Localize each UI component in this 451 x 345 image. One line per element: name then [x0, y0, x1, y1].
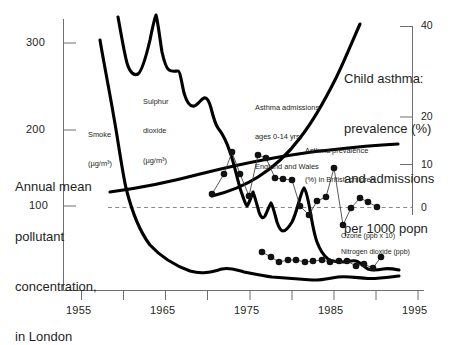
nitrogen-dioxide-marker — [259, 249, 266, 256]
nitrogen-dioxide-marker — [302, 259, 309, 266]
nitrogen-dioxide-marker — [276, 259, 283, 266]
nitrogen-dioxide-marker — [293, 257, 300, 264]
ozone-marker — [209, 191, 216, 198]
nitrogen-dioxide-marker — [268, 254, 275, 261]
series-label-ozone: Ozone (ppb x 10) — [341, 231, 395, 240]
ozone-marker — [297, 203, 304, 210]
series-label-smoke: Smoke (µg/m³) — [88, 110, 112, 189]
series-label-nitrogen-dioxide: Nitrogen dioxide (ppb) — [341, 247, 410, 256]
left-axis-title-line-2: pollutant — [15, 229, 97, 246]
right-axis-title-line-1: Child asthma: — [344, 71, 434, 88]
nitrogen-dioxide-marker — [336, 258, 343, 265]
nitrogen-dioxide-marker — [285, 257, 292, 264]
ozone-marker — [221, 171, 228, 178]
ozone-marker — [246, 193, 253, 200]
x-tick-label-1985: 1985 — [318, 304, 343, 317]
series-label-asthma-prevalence-line-2: (%) in British children — [305, 175, 375, 185]
left-tick-label-300: 300 — [26, 36, 45, 49]
series-label-smoke-line-1: Smoke — [88, 130, 112, 140]
series-label-sulphur-dioxide-line-3: (µg/m³) — [143, 156, 168, 166]
left-axis-title-line-4: in London — [15, 329, 97, 345]
x-tick-label-1965: 1965 — [150, 304, 175, 317]
series-label-asthma-admissions-line-1: Asthma admissions — [255, 103, 319, 113]
right-tick-label-40: 40 — [421, 19, 433, 32]
nitrogen-dioxide-marker — [310, 258, 317, 265]
x-tick-label-1955: 1955 — [66, 304, 91, 317]
series-label-asthma-prevalence: Asthma prevalence (%) in British childre… — [305, 126, 375, 205]
left-tick-label-200: 200 — [26, 123, 45, 136]
series-label-sulphur-dioxide-line-2: dioxide — [143, 126, 168, 136]
x-tick-label-1975: 1975 — [234, 304, 259, 317]
ozone-marker — [237, 171, 244, 178]
ozone-marker — [306, 212, 313, 219]
ozone-marker — [229, 149, 236, 156]
x-tick-label-1995: 1995 — [402, 304, 427, 317]
left-axis-title-line-1: Annual mean — [15, 179, 97, 196]
nitrogen-dioxide-marker — [327, 259, 334, 266]
nitrogen-dioxide-marker — [319, 257, 326, 264]
series-label-asthma-prevalence-line-1: Asthma prevalence — [305, 146, 375, 156]
series-label-sulphur-dioxide-line-1: Sulphur — [143, 97, 168, 107]
series-label-sulphur-dioxide: Sulphur dioxide (µg/m³) — [143, 77, 168, 185]
left-axis-title-line-3: concentration, — [15, 279, 97, 296]
series-label-smoke-line-2: (µg/m³) — [88, 159, 112, 169]
